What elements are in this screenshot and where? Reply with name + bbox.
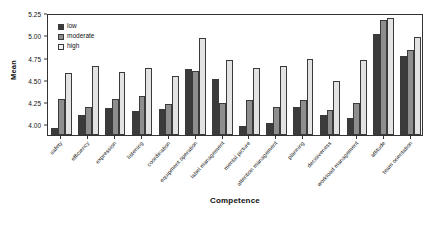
x-axis-title: Competence [47,196,423,205]
legend-label-low: low [67,23,77,30]
bar-high [280,66,287,135]
bar-low [373,34,380,135]
x-axis-tick-label: mental picture [223,140,252,171]
bar-group [209,15,236,135]
bar-low [105,108,112,135]
x-axis-tick-mark [141,136,142,139]
bar-moderate [300,100,307,135]
bar-group [182,15,209,135]
bars-container [48,15,422,135]
x-axis-tick-mark [329,136,330,139]
bar-high [199,38,206,135]
x-axis-tick-label: planning [286,140,305,160]
legend-item-high: high [58,42,94,51]
x-axis-tick-mark [383,136,384,139]
bar-group [317,15,344,135]
bar-high [92,66,99,135]
bar-moderate [112,99,119,136]
x-axis-tick-mark [87,136,88,139]
bar-group [397,15,423,135]
bar-low [239,126,246,135]
y-axis-tick-label: 5.00 [28,33,41,40]
legend-label-moderate: moderate [67,33,94,40]
x-axis-tick-label: team orientation [381,140,413,175]
x-axis-tick-mark [275,136,276,139]
bar-group [129,15,156,135]
bar-high [307,59,314,135]
bar-low [212,79,219,135]
x-axis-tick-labels: safetyefficiencyexpressionlisteningcoord… [47,140,423,188]
bar-moderate [407,50,414,135]
bar-high [253,68,260,135]
bar-high [119,72,126,135]
x-axis-tick-label: expression [94,140,117,165]
legend-swatch-icon-moderate [58,34,64,40]
x-axis-tick-mark [60,136,61,139]
bar-low [159,109,166,135]
bar-high [414,37,421,135]
bar-moderate [219,103,226,135]
bar-high [226,60,233,135]
bar-group [102,15,129,135]
bar-moderate [139,96,146,135]
y-axis-tick-label: 4.50 [28,77,41,84]
bar-group [155,15,182,135]
bar-moderate [273,107,280,135]
bar-low [266,123,273,135]
plot-area: low moderate high [47,14,423,136]
x-axis-tick-label: decisiveness [306,140,333,169]
bar-moderate [165,104,172,135]
legend-item-low: low [58,22,94,31]
bar-moderate [58,99,65,135]
bar-low [293,107,300,135]
bar-high [360,60,367,135]
legend-item-moderate: moderate [58,32,94,41]
x-axis-tick-mark [248,136,249,139]
x-axis-tick-mark [302,136,303,139]
x-axis-tick-label: listening [126,140,145,160]
bar-moderate [192,71,199,135]
bar-low [51,128,58,135]
bar-moderate [246,100,253,135]
bar-group [236,15,263,135]
x-axis-tick-mark [168,136,169,139]
x-axis-tick-mark [356,136,357,139]
bar-high [333,81,340,135]
x-axis-tick-mark [114,136,115,139]
x-axis-tick-mark [222,136,223,139]
x-axis-tick-label: efficiency [70,140,91,162]
x-axis-tick-mark [410,136,411,139]
legend-swatch-icon-high [58,44,64,50]
bar-chart: Mean 4.004.254.504.755.005.25 low modera… [0,0,432,229]
bar-low [78,115,85,135]
bar-moderate [327,110,334,135]
x-axis-tick-label: attitude [369,140,386,158]
y-axis-tick-label: 4.00 [28,122,41,129]
bar-moderate [353,103,360,135]
x-axis-tick-label: coordination [146,140,172,168]
bar-group [343,15,370,135]
y-axis-tick-label: 5.25 [28,11,41,18]
bar-moderate [85,107,92,135]
bar-group [263,15,290,135]
y-axis-tick-label: 4.75 [28,55,41,62]
bar-moderate [380,20,387,135]
bar-low [132,111,139,135]
legend: low moderate high [58,22,94,51]
bar-group [290,15,317,135]
bar-high [387,18,394,135]
bar-high [65,73,72,135]
x-axis-tick-label: safety [49,140,64,156]
legend-swatch-icon-low [58,24,64,30]
bar-low [400,56,407,135]
bar-low [347,118,354,135]
y-axis-tick-labels: 4.004.254.504.755.005.25 [18,14,44,136]
legend-label-high: high [67,43,79,50]
bar-low [320,115,327,135]
bar-low [185,69,192,135]
bar-group [370,15,397,135]
bar-high [172,76,179,135]
x-axis-tick-mark [195,136,196,139]
bar-high [145,68,152,135]
y-axis-tick-label: 4.25 [28,100,41,107]
